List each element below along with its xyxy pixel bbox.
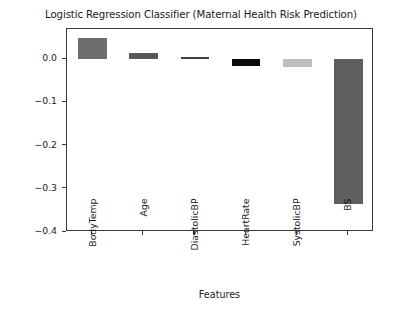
bar-heartrate xyxy=(232,59,261,65)
x-tick-label-bodytemp: BodyTemp xyxy=(85,199,98,289)
bar-diastolicbp xyxy=(181,57,210,60)
bar-age xyxy=(129,53,158,59)
figure-canvas: Logistic Regression Classifier (Maternal… xyxy=(0,0,402,326)
x-tick-label-bs: BS xyxy=(341,199,354,289)
bar-systolicbp xyxy=(283,59,312,66)
x-tick-label-diastolicbp: DiastolicBP xyxy=(187,199,200,289)
x-tick-label-heartrate: HeartRate xyxy=(239,199,252,289)
y-tick-label: −0.4 xyxy=(34,224,57,237)
plot-area xyxy=(66,28,373,231)
bars-layer xyxy=(67,29,372,230)
bar-bodytemp xyxy=(78,38,107,60)
x-axis-label: Features xyxy=(66,288,373,301)
y-tick-label: −0.1 xyxy=(34,94,57,107)
bar-bs xyxy=(334,59,363,204)
x-tick-label-systolicbp: SystolicBP xyxy=(290,199,303,289)
y-axis-ticks: 0.0−0.1−0.2−0.3−0.4 xyxy=(0,0,66,326)
x-axis-ticks: BodyTempAgeDiastolicBPHeartRateSystolicB… xyxy=(66,231,373,326)
y-tick-label: −0.3 xyxy=(34,181,57,194)
x-tick-label-age: Age xyxy=(136,199,149,289)
y-tick-label: 0.0 xyxy=(42,51,57,64)
y-tick-label: −0.2 xyxy=(34,138,57,151)
